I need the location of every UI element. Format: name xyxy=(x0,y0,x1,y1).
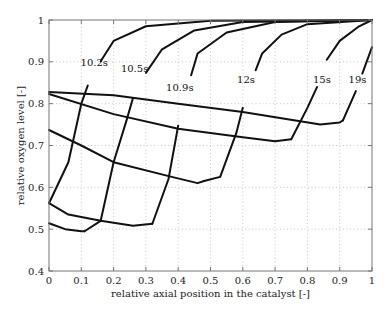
curve-19s xyxy=(362,47,372,73)
curve-label: 15s xyxy=(313,74,331,85)
y-tick-label: 0.5 xyxy=(28,224,44,235)
curve-axial-E xyxy=(49,223,85,231)
y-axis-title: relative oxygen level [-] xyxy=(15,86,26,205)
x-tick-label: 0 xyxy=(46,275,52,286)
x-tick-label: 0.4 xyxy=(170,275,186,286)
curve-label: 10.2s xyxy=(81,57,108,68)
y-tick-label: 0.4 xyxy=(28,266,44,277)
y-tick-label: 0.7 xyxy=(28,140,44,151)
curve-axial-B xyxy=(49,94,291,141)
curve-10.2s xyxy=(49,86,88,204)
x-tick-label: 1 xyxy=(369,275,375,286)
curve-label: 10.5s xyxy=(121,63,148,74)
y-tick-label: 0.9 xyxy=(28,56,44,67)
curve-12s xyxy=(204,108,243,181)
curve-label: 19s xyxy=(349,74,367,85)
curve-labels: 10.2s10.5s10.9s12s15s19s xyxy=(81,57,367,93)
x-tick-label: 0.3 xyxy=(138,275,154,286)
curve-label: 12s xyxy=(237,74,255,85)
x-tick-label: 0.9 xyxy=(332,275,348,286)
curve-label: 10.9s xyxy=(166,82,193,93)
x-tick-label: 0.6 xyxy=(235,275,251,286)
curve-10.2s xyxy=(101,20,372,61)
y-tick-label: 1 xyxy=(38,15,44,26)
curve-15s xyxy=(327,20,372,60)
curve-axial-C xyxy=(49,130,204,183)
y-tick-label: 0.8 xyxy=(28,98,44,109)
curve-axial-D xyxy=(49,203,152,226)
x-tick-label: 0.1 xyxy=(73,275,89,286)
y-tick-label: 0.6 xyxy=(28,182,44,193)
x-axis-title: relative axial position in the catalyst … xyxy=(111,288,310,299)
x-tick-label: 0.8 xyxy=(299,275,315,286)
curve-19s xyxy=(343,91,356,120)
curve-10.5s xyxy=(146,20,372,73)
x-tick-label: 0.2 xyxy=(106,275,122,286)
curve-10.9s xyxy=(191,20,372,75)
curve-12s xyxy=(256,20,372,70)
oxygen-level-chart: 00.10.20.30.40.50.60.70.80.91 0.40.50.60… xyxy=(0,0,392,310)
curve-15s xyxy=(291,87,317,139)
x-tick-label: 0.7 xyxy=(267,275,283,286)
x-tick-label: 0.5 xyxy=(203,275,219,286)
